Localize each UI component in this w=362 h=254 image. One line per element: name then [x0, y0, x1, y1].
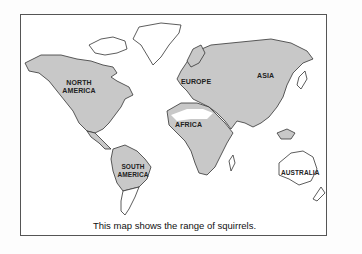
label-australia: AUSTRALIA: [281, 169, 319, 177]
new-zealand-shape: [313, 187, 325, 201]
label-africa: AFRICA: [175, 121, 202, 129]
se-asia-islands-shape: [277, 129, 295, 139]
label-south: SOUTH: [115, 163, 151, 171]
madagascar-shape: [229, 155, 235, 171]
south-america-south-shape: [121, 187, 139, 215]
label-america-south: AMERICA: [115, 171, 151, 179]
map-frame: NORTH AMERICA SOUTH AMERICA EUROPE ASIA …: [20, 14, 327, 236]
central-america-shape: [87, 131, 111, 149]
greenland-shape: [133, 23, 181, 65]
label-asia: ASIA: [257, 72, 274, 80]
label-north-america: NORTH AMERICA: [61, 79, 97, 95]
label-north: NORTH: [61, 79, 97, 87]
map-caption: This map shows the range of squirrels.: [21, 220, 328, 231]
japan-shape: [297, 71, 307, 89]
label-south-america: SOUTH AMERICA: [115, 163, 151, 179]
label-america: AMERICA: [61, 87, 97, 95]
australia-shape: [279, 151, 317, 185]
arctic-islands-shape: [89, 37, 127, 55]
label-europe: EUROPE: [181, 78, 211, 86]
